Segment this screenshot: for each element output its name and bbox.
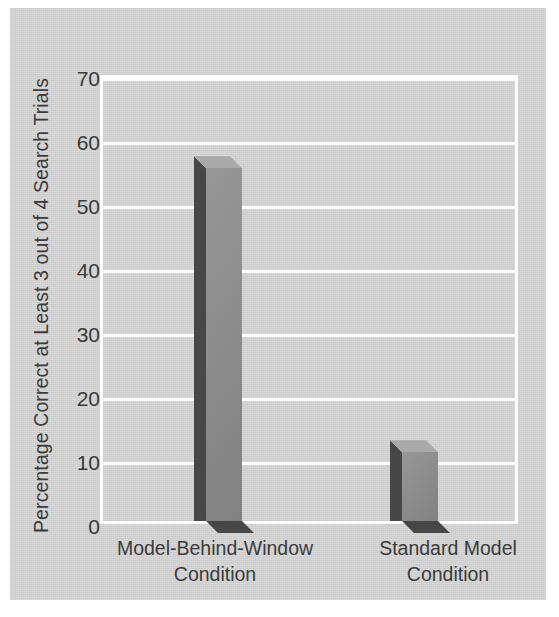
bar-base-shadow	[402, 521, 450, 533]
x-category-line-1: Standard Model	[340, 536, 546, 562]
bar-model-behind-window	[194, 156, 242, 521]
gridline-50	[103, 206, 515, 209]
x-category-line-2: Condition	[340, 562, 546, 588]
y-tick-label-20: 20	[58, 388, 100, 409]
plot-area	[100, 75, 518, 524]
gridline-60	[103, 142, 515, 145]
x-category-label-model-behind-window: Model-Behind-Window Condition	[70, 536, 360, 587]
y-axis-tick-labels: 70 60 50 40 30 20 10 0	[48, 8, 100, 600]
bar-standard-model	[390, 440, 438, 521]
figure: Percentage Correct at Least 3 out of 4 S…	[0, 0, 559, 617]
bar-front-face	[402, 452, 438, 521]
gridline-40	[103, 270, 515, 273]
y-tick-label-50: 50	[58, 196, 100, 217]
x-category-line-2: Condition	[70, 562, 360, 588]
y-tick-label-30: 30	[58, 324, 100, 345]
gridline-20	[103, 398, 515, 401]
y-tick-label-40: 40	[58, 260, 100, 281]
y-tick-label-70: 70	[58, 68, 100, 89]
chart-canvas: Percentage Correct at Least 3 out of 4 S…	[10, 8, 546, 600]
x-category-line-1: Model-Behind-Window	[70, 536, 360, 562]
y-tick-label-10: 10	[58, 452, 100, 473]
gridline-10	[103, 462, 515, 465]
bar-front-face	[206, 168, 242, 521]
bar-base-shadow	[206, 521, 254, 533]
x-category-label-standard-model: Standard Model Condition	[340, 536, 546, 587]
bar-side-face	[390, 440, 402, 521]
gridline-30	[103, 334, 515, 337]
y-tick-label-0: 0	[58, 516, 100, 537]
gridline-70	[103, 78, 515, 81]
bar-side-face	[194, 156, 206, 521]
y-tick-label-60: 60	[58, 132, 100, 153]
